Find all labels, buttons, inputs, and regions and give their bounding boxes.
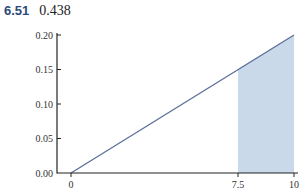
x-tick-label: 10 (289, 179, 299, 190)
y-tick-label: 0.05 (36, 133, 54, 144)
y-tick-label: 0.20 (36, 30, 54, 41)
y-tick-label: 0.10 (36, 99, 54, 110)
y-tick-label: 0.00 (36, 168, 54, 179)
shaded-probability-region (238, 35, 294, 173)
x-ticks (71, 173, 294, 177)
density-chart: 0.20 0.15 0.10 0.05 0.00 0 7.5 10 (0, 0, 308, 190)
x-tick-label: 0 (69, 179, 74, 190)
x-tick-label: 7.5 (232, 179, 245, 190)
y-tick-label: 0.15 (36, 64, 54, 75)
